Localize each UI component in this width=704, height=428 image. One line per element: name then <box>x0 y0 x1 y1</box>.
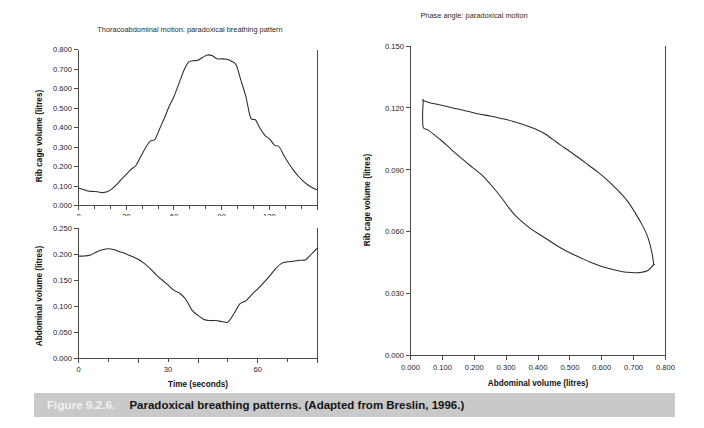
xtick-label: 0.400 <box>528 363 547 372</box>
rib-cage-yticks <box>74 50 78 206</box>
phase-angle-loop-curve <box>423 99 655 272</box>
figure-caption-bar: Figure 9.2.6. Paradoxical breathing patt… <box>34 393 675 417</box>
xtick-label: 0.100 <box>433 363 452 372</box>
chart-panel-phase-angle-loop: Phase angle: paradoxical motion Rib cage… <box>352 0 704 392</box>
ytick-label: 0.120 <box>385 104 404 113</box>
chart-panel-abdominal-timeseries: Abdominal volume (litres) 0.250 0.200 0.… <box>0 216 352 391</box>
xtick-label: 30 <box>164 365 172 374</box>
rib-cage-xticks <box>79 206 318 211</box>
phase-angle-xticks <box>411 355 666 360</box>
rib-cage-data-curve <box>79 55 318 193</box>
ytick-label: 0.000 <box>53 354 72 363</box>
ytick-label: 0.200 <box>53 250 72 259</box>
xtick-label: 0.000 <box>401 363 420 372</box>
abdominal-yticks <box>74 228 78 358</box>
ytick-label: 0.150 <box>53 276 72 285</box>
ytick-label: 0.150 <box>385 42 404 51</box>
figure-caption-text: Paradoxical breathing patterns. (Adapted… <box>129 399 464 411</box>
abdominal-xticks <box>79 358 318 363</box>
ytick-label: 0.400 <box>53 123 72 132</box>
rib-cage-timeseries-svg: Thoracoabdominal motion: paradoxical bre… <box>0 16 352 216</box>
phase-angle-ytick-labels: 0.150 0.120 0.090 0.060 0.030 0.000 <box>385 42 404 360</box>
xtick-label: 0.600 <box>592 363 611 372</box>
xtick-label: 0 <box>76 365 80 374</box>
abdominal-y-axis-title: Abdominal volume (litres) <box>35 245 44 346</box>
xtick-label: 0.200 <box>465 363 484 372</box>
xtick-label: 0.300 <box>497 363 516 372</box>
ytick-label: 0.600 <box>53 84 72 93</box>
rib-cage-y-axis-title: Rib cage volume (litres) <box>35 90 44 183</box>
ytick-label: 0.000 <box>385 351 404 360</box>
ytick-label: 0.250 <box>53 224 72 233</box>
figure-container: Thoracoabdominal motion: paradoxical bre… <box>0 0 704 428</box>
phase-angle-xtick-labels: 0.000 0.100 0.200 0.300 0.400 0.500 0.60… <box>401 363 675 372</box>
xtick-label: 0.800 <box>656 363 675 372</box>
ytick-label: 0.030 <box>385 289 404 298</box>
abdominal-x-axis-title: Time (seconds) <box>168 380 228 389</box>
abdominal-ytick-labels: 0.250 0.200 0.150 0.100 0.050 0.000 <box>53 224 72 363</box>
phase-angle-y-axis-title: Rib cage volume (litres) <box>363 154 372 247</box>
ytick-label: 0.100 <box>53 302 72 311</box>
ytick-label: 0.200 <box>53 162 72 171</box>
abdominal-data-curve <box>79 248 318 323</box>
ytick-label: 0.100 <box>53 182 72 191</box>
ytick-label: 0.700 <box>53 65 72 74</box>
ytick-label: 0.500 <box>53 104 72 113</box>
ytick-label: 0.800 <box>53 45 72 54</box>
xtick-label: 0.500 <box>560 363 579 372</box>
ytick-label: 0.090 <box>385 166 404 175</box>
phase-angle-loop-svg: Phase angle: paradoxical motion Rib cage… <box>352 0 704 392</box>
rib-cage-chart-title: Thoracoabdominal motion: paradoxical bre… <box>97 25 282 34</box>
abdominal-xtick-labels: 0 30 60 <box>76 365 262 374</box>
phase-angle-chart-title: Phase angle: paradoxical motion <box>420 11 527 20</box>
phase-angle-x-axis-title: Abdominal volume (litres) <box>488 379 589 388</box>
xtick-label: 0.700 <box>624 363 643 372</box>
ytick-label: 0.060 <box>385 227 404 236</box>
chart-panel-rib-cage-timeseries: Thoracoabdominal motion: paradoxical bre… <box>0 16 352 216</box>
phase-angle-yticks <box>406 46 410 355</box>
rib-cage-ytick-labels: 0.800 0.700 0.600 0.500 0.400 0.300 0.20… <box>53 45 72 210</box>
ytick-label: 0.050 <box>53 328 72 337</box>
ytick-label: 0.000 <box>53 201 72 210</box>
abdominal-timeseries-svg: Abdominal volume (litres) 0.250 0.200 0.… <box>0 216 352 391</box>
xtick-label: 60 <box>254 365 262 374</box>
figure-number-label: Figure 9.2.6. <box>47 399 115 411</box>
ytick-label: 0.300 <box>53 143 72 152</box>
